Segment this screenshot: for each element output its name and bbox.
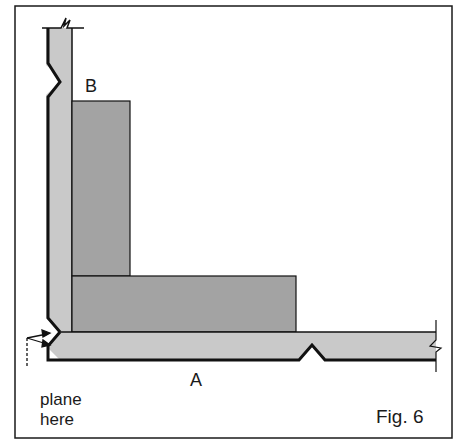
board-a-label: A xyxy=(190,370,202,391)
break-line-top-icon xyxy=(42,18,84,28)
board-a xyxy=(46,332,436,360)
vertical-board xyxy=(46,28,72,332)
figure-caption: Fig. 6 xyxy=(376,406,424,428)
plane-here-line2: here xyxy=(40,410,82,430)
plane-here-label: plane here xyxy=(40,390,82,430)
horizontal-block xyxy=(72,276,296,332)
board-b xyxy=(72,101,130,276)
diagram-canvas xyxy=(0,0,455,441)
plane-here-line1: plane xyxy=(40,390,82,410)
board-b-label: B xyxy=(85,76,97,97)
